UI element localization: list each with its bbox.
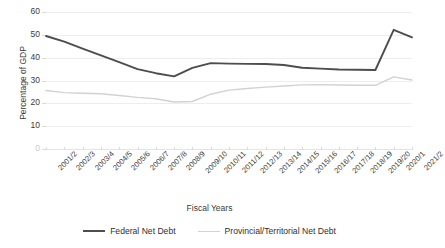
- x-tick-label-2003-4: 2003/4: [93, 150, 115, 172]
- x-tick-mark-18: [375, 147, 376, 150]
- y-tick-label-0: 0: [10, 144, 40, 153]
- x-tick-mark-16: [339, 147, 340, 150]
- x-tick-mark-9: [211, 147, 212, 150]
- x-tick-mark-3: [101, 147, 102, 150]
- x-tick-mark-14: [302, 147, 303, 150]
- x-tick-mark-11: [247, 147, 248, 150]
- x-tick-mark-15: [321, 147, 322, 150]
- legend-line-federal-icon: [83, 230, 105, 232]
- x-tick-label-2021-2: 2021/2: [423, 150, 445, 172]
- x-tick-mark-5: [138, 147, 139, 150]
- x-tick-label-2001-2: 2001/2: [57, 150, 79, 172]
- x-axis-title: Fiscal Years: [0, 203, 419, 213]
- x-tick-mark-7: [174, 147, 175, 150]
- legend-item-federal[interactable]: Federal Net Debt: [83, 226, 175, 236]
- x-tick-mark-13: [284, 147, 285, 150]
- legend-line-provincial-icon: [198, 231, 220, 232]
- chart-legend: Federal Net Debt Provincial/Territorial …: [0, 226, 419, 236]
- x-tick-mark-1: [64, 147, 65, 150]
- x-tick-label-2004-5: 2004/5: [112, 150, 134, 172]
- x-axis-ticks: 2001/22002/32003/42004/52005/62006/72007…: [46, 150, 412, 202]
- x-tick-label-2007-8: 2007/8: [167, 150, 189, 172]
- x-tick-mark-6: [156, 147, 157, 150]
- legend-item-provincial[interactable]: Provincial/Territorial Net Debt: [198, 226, 336, 236]
- y-tick-label-10: 10: [10, 121, 40, 130]
- y-tick-label-40: 40: [10, 53, 40, 62]
- series-line-federal: [46, 30, 412, 77]
- legend-label-provincial: Provincial/Territorial Net Debt: [225, 226, 336, 236]
- x-tick-label-2006-7: 2006/7: [148, 150, 170, 172]
- y-tick-label-50: 50: [10, 30, 40, 39]
- y-tick-label-30: 30: [10, 76, 40, 85]
- x-tick-label-2005-6: 2005/6: [130, 150, 152, 172]
- x-tick-mark-10: [229, 147, 230, 150]
- y-tick-label-20: 20: [10, 98, 40, 107]
- y-tick-label-60: 60: [10, 7, 40, 16]
- series-line-provincial: [46, 77, 412, 102]
- x-tick-mark-20: [412, 147, 413, 150]
- x-tick-mark-19: [394, 147, 395, 150]
- x-tick-mark-2: [83, 147, 84, 150]
- x-tick-mark-0: [46, 147, 47, 150]
- x-tick-mark-8: [192, 147, 193, 150]
- series-lines: [46, 12, 412, 149]
- x-tick-mark-4: [119, 147, 120, 150]
- legend-label-federal: Federal Net Debt: [110, 226, 175, 236]
- x-tick-label-2002-3: 2002/3: [75, 150, 97, 172]
- plot-area: [46, 12, 412, 149]
- x-tick-mark-17: [357, 147, 358, 150]
- x-tick-mark-12: [266, 147, 267, 150]
